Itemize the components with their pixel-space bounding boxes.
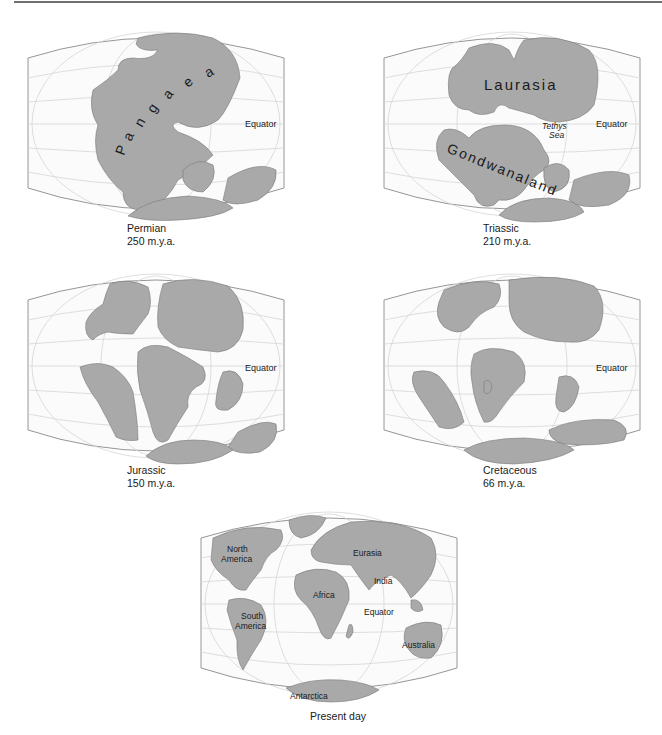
- north-america-label-line2: America: [221, 554, 252, 564]
- period-label: Present day: [310, 710, 366, 723]
- south-america-label-line1: South: [241, 611, 263, 621]
- laurasia-label: Laurasia: [484, 76, 558, 93]
- equator-label: Equator: [245, 363, 277, 373]
- caption-cretaceous: Cretaceous 66 m.y.a.: [483, 464, 537, 490]
- caption-present-day: Present day: [310, 710, 366, 723]
- map-panel-cretaceous: Equator: [384, 272, 640, 460]
- caption-jurassic: Jurassic 150 m.y.a.: [127, 464, 175, 490]
- triassic-map: Laurasia Gondwanaland Tethys Sea Equator: [384, 30, 640, 218]
- map-panel-triassic: Laurasia Gondwanaland Tethys Sea Equator: [384, 30, 640, 218]
- map-panel-jurassic: Equator: [28, 272, 284, 460]
- sea-label: Sea: [549, 130, 564, 140]
- equator-label: Equator: [596, 363, 628, 373]
- age-label: 150 m.y.a.: [127, 477, 175, 490]
- africa-label: Africa: [313, 590, 335, 600]
- equator-label: Equator: [596, 119, 628, 129]
- cretaceous-map: Equator: [384, 272, 640, 460]
- north-america-label-line1: North: [227, 544, 248, 554]
- equator-label: Equator: [245, 119, 277, 129]
- south-america-label-line2: America: [235, 621, 266, 631]
- period-label: Permian: [127, 222, 175, 235]
- page-header-rule: [14, 1, 662, 3]
- period-label: Triassic: [483, 222, 531, 235]
- eurasia-label: Eurasia: [353, 548, 382, 558]
- map-panel-present-day: North America South America Eurasia Afri…: [201, 510, 457, 698]
- india-label: India: [374, 576, 393, 586]
- jurassic-map: Equator: [28, 272, 284, 460]
- equator-label: Equator: [364, 607, 394, 617]
- australia-label: Australia: [402, 640, 435, 650]
- age-label: 66 m.y.a.: [483, 477, 537, 490]
- period-label: Jurassic: [127, 464, 175, 477]
- permian-map: P a n g a e a Equator: [28, 30, 284, 218]
- antarctica-label: Antarctica: [290, 691, 328, 701]
- map-panel-permian: P a n g a e a Equator: [28, 30, 284, 218]
- period-label: Cretaceous: [483, 464, 537, 477]
- present-day-map: North America South America Eurasia Afri…: [201, 510, 457, 698]
- age-label: 210 m.y.a.: [483, 235, 531, 248]
- age-label: 250 m.y.a.: [127, 235, 175, 248]
- caption-triassic: Triassic 210 m.y.a.: [483, 222, 531, 248]
- caption-permian: Permian 250 m.y.a.: [127, 222, 175, 248]
